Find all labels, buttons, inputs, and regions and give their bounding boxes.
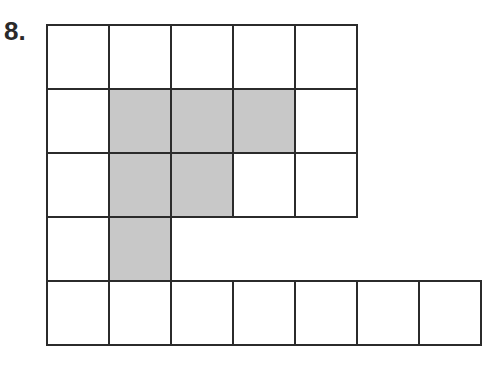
grid-cell — [170, 280, 234, 346]
grid-cell — [294, 152, 358, 218]
shaded-cell — [108, 152, 172, 218]
grid-cell — [356, 280, 420, 346]
grid-cell — [108, 24, 172, 90]
grid-cell — [46, 152, 110, 218]
grid-cell — [232, 152, 296, 218]
shaded-cell — [170, 152, 234, 218]
shaded-cell — [108, 88, 172, 154]
shaded-cell — [108, 216, 172, 282]
grid-cell — [294, 24, 358, 90]
grid-cell — [294, 280, 358, 346]
shaded-cell — [232, 88, 296, 154]
grid-cell — [418, 280, 482, 346]
grid-cell — [108, 280, 172, 346]
grid-cell — [232, 280, 296, 346]
grid-cell — [46, 216, 110, 282]
grid-cell — [232, 24, 296, 90]
shaded-cell — [170, 88, 234, 154]
grid-cell — [46, 88, 110, 154]
grid-cell — [294, 88, 358, 154]
problem-number: 8. — [4, 16, 26, 47]
grid-cell — [170, 24, 234, 90]
grid-cell — [46, 24, 110, 90]
grid-cell — [46, 280, 110, 346]
